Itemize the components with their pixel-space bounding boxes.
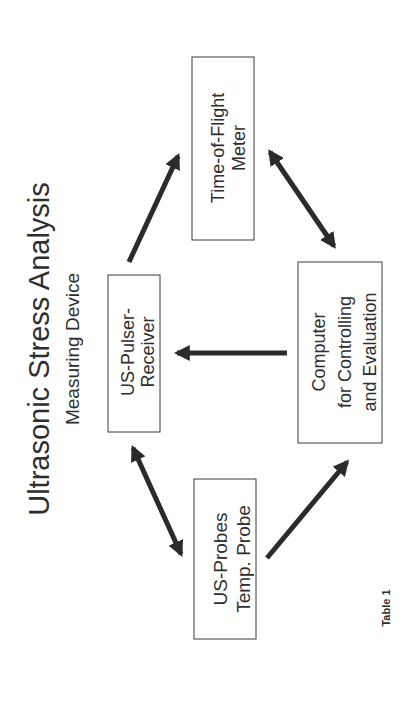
arrow-probes-to-computer — [267, 462, 347, 558]
table-caption: Table 1 — [380, 589, 392, 626]
node-label-line: Computer — [309, 312, 329, 391]
diagram-canvas: Ultrasonic Stress Analysis Measuring Dev… — [0, 0, 404, 712]
node-us-probes: US-Probes Temp. Probe — [194, 479, 256, 639]
diagram-title: Ultrasonic Stress Analysis — [23, 182, 55, 516]
node-label-line: Meter — [229, 125, 249, 171]
diagram-subtitle: Measuring Device — [62, 273, 83, 425]
node-time-of-flight-meter: Time-of-Flight Meter — [192, 57, 254, 240]
arrow-tof-computer — [270, 152, 334, 246]
node-label-line: US-Pulser- — [118, 308, 138, 396]
arrow-pulser-to-tof — [129, 156, 178, 262]
node-label-line: for Controlling — [335, 296, 355, 408]
node-us-pulser-receiver: US-Pulser- Receiver — [108, 275, 160, 432]
node-label-line: and Evaluation — [360, 292, 380, 411]
node-label-line: Receiver — [138, 316, 158, 387]
node-computer: Computer for Controlling and Evaluation — [298, 262, 382, 443]
node-label-line: US-Probes — [210, 513, 231, 606]
node-label-line: Time-of-Flight — [208, 93, 228, 203]
node-label-line: Temp. Probe — [233, 505, 254, 613]
arrow-pulser-probes — [133, 448, 181, 554]
